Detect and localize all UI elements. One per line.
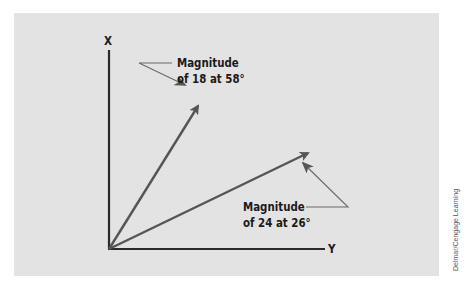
callout-18-label: Magnitude of 18 at 58° — [177, 55, 245, 87]
y-axis-label: Y — [328, 241, 336, 256]
callout-18-line1: Magnitude — [177, 55, 245, 71]
callout-24-line1: Magnitude — [243, 199, 311, 215]
x-axis-label: X — [104, 33, 112, 48]
callout-24-line2: of 24 at 26° — [243, 215, 311, 231]
callout-18-line2: of 18 at 58° — [177, 71, 245, 87]
callout-24-label: Magnitude of 24 at 26° — [243, 199, 311, 231]
image-credit: Delmar/Cengage Learning — [452, 189, 459, 271]
vector-diagram — [0, 0, 468, 290]
